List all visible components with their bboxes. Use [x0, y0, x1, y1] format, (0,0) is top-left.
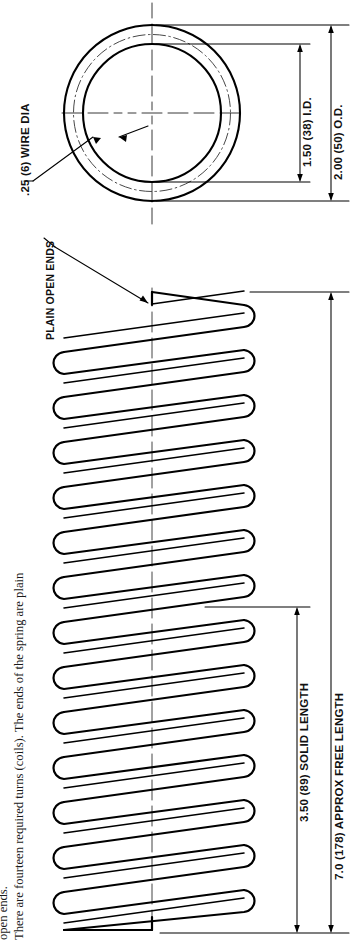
solid-length-label: 3.50 (89) SOLID LENGTH [298, 683, 310, 822]
body-note-line-2: open ends. [0, 886, 11, 940]
end-view-circles [62, 3, 240, 224]
outer-diameter-label: 2.00 (50) O.D. [332, 104, 344, 180]
spring-front-coil-loops [54, 292, 255, 930]
body-note-line-1: There are fourteen required turns (coils… [12, 573, 27, 940]
inner-diameter-label: 1.50 (38) I.D. [301, 97, 313, 167]
plain-open-ends-label: PLAIN OPEN ENDS [44, 241, 56, 340]
wire-dia-label: .25 (6) WIRE DIA [19, 103, 31, 196]
spring-side-view [54, 288, 255, 930]
free-length-label: 7.0 (178) APPROX FREE LENGTH [333, 693, 345, 880]
plain-open-ends-leader [44, 238, 148, 303]
length-dimension-lines [160, 292, 349, 933]
